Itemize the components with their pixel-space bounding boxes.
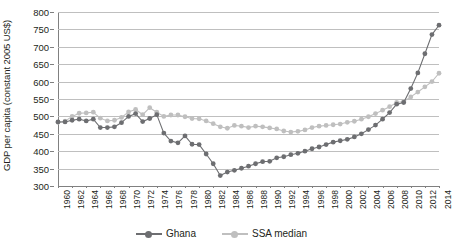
x-tick-label-1978: 1978 <box>189 190 199 209</box>
data-point <box>211 161 216 166</box>
data-point <box>253 124 258 129</box>
data-point <box>126 109 131 114</box>
data-point <box>168 139 173 144</box>
data-point <box>387 104 392 109</box>
data-point <box>204 119 209 124</box>
legend-marker-icon <box>136 229 162 239</box>
x-tick-label-1976: 1976 <box>174 190 184 209</box>
series-line-ghana <box>58 25 439 175</box>
x-tick-mark-2004 <box>368 186 369 188</box>
data-point <box>281 154 286 159</box>
data-point <box>415 90 420 95</box>
data-point <box>119 120 124 125</box>
x-axis-tick-labels: 1960196219641966196819701972197419761978… <box>58 188 439 222</box>
x-tick-mark-1998 <box>326 186 327 188</box>
data-point <box>218 173 223 178</box>
data-point <box>119 115 124 120</box>
data-point <box>387 110 392 115</box>
data-point <box>394 102 399 107</box>
y-tick-mark-800 <box>50 12 54 13</box>
legend-item-ghana[interactable]: Ghana <box>136 228 196 239</box>
x-tick-label-1980: 1980 <box>203 190 213 209</box>
y-tick-mark-650 <box>50 64 54 65</box>
data-point <box>176 113 181 118</box>
data-point <box>422 84 427 89</box>
data-point <box>430 79 435 84</box>
x-tick-label-1984: 1984 <box>231 190 241 209</box>
data-point <box>324 123 329 128</box>
data-point <box>324 142 329 147</box>
data-point <box>295 129 300 134</box>
x-tick-mark-2008 <box>397 186 398 188</box>
data-point <box>105 125 110 130</box>
data-point <box>317 124 322 129</box>
data-point <box>63 120 68 125</box>
data-point <box>267 125 272 130</box>
data-point <box>373 123 378 128</box>
y-tick-label-650: 650 <box>33 59 49 70</box>
x-tick-label-2014: 2014 <box>443 190 453 209</box>
data-point <box>281 129 286 134</box>
data-point <box>288 130 293 135</box>
data-point <box>345 120 350 125</box>
x-tick-label-1992: 1992 <box>287 190 297 209</box>
x-tick-mark-1986 <box>241 186 242 188</box>
data-point <box>126 114 131 119</box>
data-point <box>218 124 223 129</box>
y-tick-mark-300 <box>50 186 54 187</box>
data-point <box>345 137 350 142</box>
data-point <box>288 152 293 157</box>
x-tick-mark-1978 <box>185 186 186 188</box>
data-point <box>112 124 117 129</box>
x-tick-mark-1996 <box>312 186 313 188</box>
x-tick-mark-2010 <box>411 186 412 188</box>
data-point <box>239 166 244 171</box>
x-tick-mark-1992 <box>284 186 285 188</box>
y-tick-label-700: 700 <box>33 41 49 52</box>
y-tick-label-800: 800 <box>33 7 49 18</box>
data-point <box>359 131 364 136</box>
x-tick-mark-1972 <box>143 186 144 188</box>
y-tick-mark-550 <box>50 99 54 100</box>
y-tick-label-750: 750 <box>33 24 49 35</box>
x-tick-mark-2006 <box>383 186 384 188</box>
y-tick-mark-350 <box>50 169 54 170</box>
y-tick-label-300: 300 <box>33 181 49 192</box>
data-point <box>91 117 96 122</box>
x-tick-mark-1988 <box>256 186 257 188</box>
x-tick-label-2004: 2004 <box>372 190 382 209</box>
data-point <box>98 116 103 121</box>
x-tick-label-2006: 2006 <box>386 190 396 209</box>
data-point <box>183 114 188 119</box>
x-tick-mark-1970 <box>129 186 130 188</box>
x-tick-label-1990: 1990 <box>273 190 283 209</box>
data-point <box>274 127 279 132</box>
x-tick-mark-1968 <box>114 186 115 188</box>
x-tick-mark-1994 <box>298 186 299 188</box>
data-point <box>366 114 371 119</box>
legend-item-ssa-median[interactable]: SSA median <box>222 228 307 239</box>
data-point <box>197 142 202 147</box>
data-point <box>239 124 244 129</box>
series-line-ssa-median <box>58 73 439 132</box>
x-tick-label-2008: 2008 <box>400 190 410 209</box>
y-tick-label-350: 350 <box>33 163 49 174</box>
y-tick-mark-500 <box>50 116 54 117</box>
y-tick-label-550: 550 <box>33 94 49 105</box>
x-tick-label-1974: 1974 <box>160 190 170 209</box>
data-point <box>154 112 159 117</box>
x-tick-label-1964: 1964 <box>90 190 100 209</box>
legend-label: Ghana <box>166 228 196 239</box>
data-point <box>190 116 195 121</box>
x-tick-label-1986: 1986 <box>245 190 255 209</box>
x-tick-mark-1964 <box>86 186 87 188</box>
data-point <box>197 116 202 121</box>
x-tick-mark-1976 <box>171 186 172 188</box>
legend-dot-icon <box>145 231 152 238</box>
series-ghana <box>56 23 442 178</box>
data-point <box>77 111 82 116</box>
data-point <box>190 142 195 147</box>
data-point <box>161 131 166 136</box>
data-point <box>274 155 279 160</box>
